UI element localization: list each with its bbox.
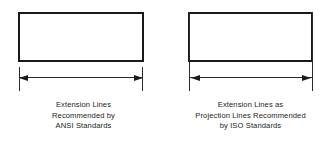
dimension-line-iso (189, 77, 313, 78)
caption-iso: Extension Lines as Projection Lines Reco… (167, 100, 334, 132)
dimension-arrowhead-left-iso (191, 75, 200, 81)
caption-ansi: Extension Lines Recommended by ANSI Stan… (0, 100, 167, 132)
caption-iso-line-3: by ISO Standards (167, 121, 334, 132)
panel-ansi: Extension Lines Recommended by ANSI Stan… (0, 0, 167, 147)
caption-ansi-line-3: ANSI Standards (0, 121, 167, 132)
dimension-arrowhead-right-ansi (134, 75, 143, 81)
panel-iso: Extension Lines as Projection Lines Reco… (167, 0, 334, 147)
caption-ansi-line-1: Extension Lines (0, 100, 167, 111)
projection-line-right-iso (312, 12, 313, 91)
dimension-arrowhead-left-ansi (19, 75, 28, 81)
technical-drawing-figure: Extension Lines Recommended by ANSI Stan… (0, 0, 334, 147)
caption-iso-line-1: Extension Lines as (167, 100, 334, 111)
dimension-arrowhead-right-iso (302, 75, 311, 81)
object-rectangle-ansi (18, 12, 144, 62)
projection-line-left-iso (189, 12, 190, 91)
dimension-line-ansi (19, 77, 143, 78)
object-rectangle-iso (188, 12, 313, 62)
caption-ansi-line-2: Recommended by (0, 111, 167, 122)
caption-iso-line-2: Projection Lines Recommended (167, 111, 334, 122)
